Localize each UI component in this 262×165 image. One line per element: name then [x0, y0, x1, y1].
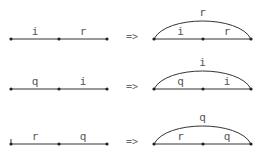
vertex-dot [201, 37, 204, 40]
edge-label: r [80, 25, 87, 38]
edge-label: q [80, 130, 87, 143]
arc-label: q [199, 111, 206, 124]
vertex-dot [249, 37, 252, 40]
vertex-dot [9, 87, 12, 90]
edge-label: i [224, 75, 231, 88]
vertex-dot [57, 87, 60, 90]
implies-arrow: => [126, 136, 138, 147]
edge-label: r [177, 130, 184, 143]
vertex-dot [201, 87, 204, 90]
vertex-dot [105, 37, 108, 40]
vertex-dot [152, 87, 155, 90]
implies-arrow: => [126, 31, 138, 42]
edge-label: q [177, 75, 184, 88]
edge-label: i [80, 75, 87, 88]
edge-label: r [32, 130, 39, 143]
vertex-dot [249, 142, 252, 145]
vertex-dot [152, 37, 155, 40]
vertex-dot [105, 87, 108, 90]
vertex-dot [57, 37, 60, 40]
rewrite-rules-diagram: ir=>irrqi=>qiirq=>rqq [0, 0, 262, 165]
closing-arc-edge [154, 71, 251, 89]
vertex-dot [249, 87, 252, 90]
vertex-dot [9, 37, 12, 40]
vertex-dot [152, 142, 155, 145]
closing-arc-edge [154, 21, 251, 39]
vertex-dot [57, 142, 60, 145]
vertex-dot [201, 142, 204, 145]
edge-label: r [224, 25, 231, 38]
closing-arc-edge [154, 126, 251, 144]
edge-label: i [177, 25, 184, 38]
edge-label: q [224, 130, 231, 143]
edge-label: q [32, 75, 39, 88]
arc-label: i [199, 56, 206, 69]
edge-label: i [32, 25, 39, 38]
arc-label: r [199, 6, 206, 19]
vertex-dot [105, 142, 108, 145]
implies-arrow: => [126, 81, 138, 92]
